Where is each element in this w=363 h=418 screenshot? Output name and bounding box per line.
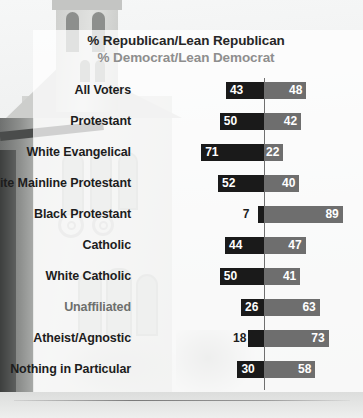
row-bars: 2663: [0, 297, 363, 328]
republican-value: 52: [222, 176, 235, 191]
democrat-value: 22: [266, 145, 279, 160]
republican-bar: 50: [220, 268, 264, 285]
republican-value: 50: [224, 114, 237, 129]
chart-row: White Catholic5041: [0, 266, 363, 297]
democrat-bar: 22: [264, 144, 283, 161]
row-bars: 4348: [0, 80, 363, 111]
row-bars: 5042: [0, 111, 363, 142]
steeple-cap: [52, 0, 122, 10]
row-bars: 789: [0, 204, 363, 235]
republican-value: 7: [243, 207, 250, 222]
democrat-bar: 89: [264, 206, 343, 223]
chart-row: Unaffiliated2663: [0, 297, 363, 328]
republican-bar: 71: [201, 144, 264, 161]
chart-row: Nothing in Particular3058: [0, 359, 363, 390]
chart-row: Atheist/Agnostic1873: [0, 328, 363, 359]
republican-value: 71: [205, 145, 218, 160]
republican-value: 30: [241, 362, 254, 377]
republican-value: 26: [245, 300, 258, 315]
democrat-bar: 48: [264, 82, 306, 99]
chart-row: All Voters4348: [0, 80, 363, 111]
chart-row: Protestant5042: [0, 111, 363, 142]
republican-bar: 26: [241, 299, 264, 316]
democrat-value: 48: [289, 83, 302, 98]
democrat-value: 47: [288, 238, 301, 253]
republican-value: 50: [224, 269, 237, 284]
democrat-bar: 42: [264, 113, 301, 130]
democrat-value: 40: [282, 176, 295, 191]
chart-row: White Mainline Protestant5240: [0, 173, 363, 204]
republican-value: 18: [233, 331, 246, 346]
democrat-value: 89: [325, 207, 338, 222]
row-bars: 7122: [0, 142, 363, 173]
chart-screenshot: % Republican/Lean Republican % Democrat/…: [0, 0, 363, 418]
republican-bar: 43: [226, 82, 264, 99]
democrat-value: 41: [283, 269, 296, 284]
republican-bar: 30: [237, 361, 264, 378]
republican-bar: 50: [220, 113, 264, 130]
footer-caption: [200, 409, 360, 418]
democrat-bar: 40: [264, 175, 299, 192]
legend-democrat: % Democrat/Lean Democrat: [33, 49, 339, 66]
row-bars: 1873: [0, 328, 363, 359]
democrat-value: 42: [284, 114, 297, 129]
chart-rows: All Voters4348Protestant5042White Evange…: [0, 80, 363, 390]
republican-value: 43: [230, 83, 243, 98]
row-bars: 5041: [0, 266, 363, 297]
democrat-value: 58: [298, 362, 311, 377]
republican-bar: [248, 330, 264, 347]
legend-republican: % Republican/Lean Republican: [33, 32, 339, 49]
democrat-bar: 63: [264, 299, 320, 316]
republican-bar: 52: [218, 175, 264, 192]
democrat-bar: 73: [264, 330, 329, 347]
chart-row: Black Protestant789: [0, 204, 363, 235]
row-bars: 3058: [0, 359, 363, 390]
republican-bar: 44: [225, 237, 264, 254]
row-bars: 4447: [0, 235, 363, 266]
democrat-bar: 47: [264, 237, 306, 254]
democrat-bar: 58: [264, 361, 315, 378]
footer-divider: [14, 400, 350, 401]
row-bars: 5240: [0, 173, 363, 204]
chart-legend: % Republican/Lean Republican % Democrat/…: [33, 32, 339, 66]
democrat-value: 63: [302, 300, 315, 315]
republican-value: 44: [229, 238, 242, 253]
chart-row: White Evangelical7122: [0, 142, 363, 173]
chart-row: Catholic4447: [0, 235, 363, 266]
democrat-bar: 41: [264, 268, 300, 285]
democrat-value: 73: [311, 331, 324, 346]
